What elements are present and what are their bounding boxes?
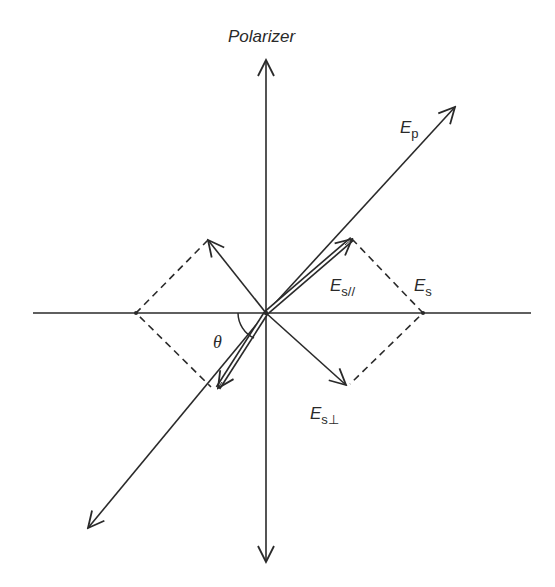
es-perpendicular-vector-lower (266, 313, 346, 385)
ep-label: Ep (400, 118, 419, 138)
es-parallel-label-main: E (330, 276, 341, 295)
es-label: Es (414, 276, 432, 296)
es-perpendicular-label-main: E (310, 404, 321, 423)
theta-label: θ (213, 332, 222, 353)
es-parallel-label: Es// (330, 276, 355, 296)
es-label-main: E (414, 276, 425, 295)
es-perpendicular-vector (208, 240, 266, 313)
polarizer-label: Polarizer (228, 27, 295, 47)
es-parallel-vector-lower-inner (218, 313, 266, 388)
decomposition-dashed-right (350, 239, 423, 384)
es-perpendicular-label-sub: s⊥ (321, 412, 339, 427)
ep-label-sub: p (411, 126, 418, 141)
es-label-sub: s (425, 284, 432, 299)
es-parallel-label-sub: s// (341, 284, 355, 299)
polarization-diagram (0, 0, 555, 587)
ep-vector-lower (88, 313, 266, 528)
origin-dot (264, 311, 268, 315)
es-perpendicular-label: Es⊥ (310, 404, 339, 424)
ep-label-main: E (400, 118, 411, 137)
